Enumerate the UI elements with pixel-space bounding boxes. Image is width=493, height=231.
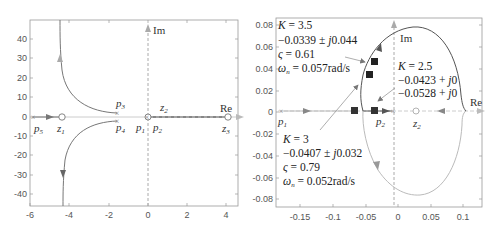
left-xtick: -2 xyxy=(105,210,113,220)
right-xtick: 0.1 xyxy=(457,212,470,222)
left-xtick: 2 xyxy=(184,210,189,220)
left-ytick: -10 xyxy=(14,131,27,141)
left-zero-z3-marker xyxy=(225,114,231,120)
left-locus-arrow-icon xyxy=(60,170,66,178)
right-locus-arrow-icon xyxy=(382,108,390,114)
left-im-label: Im xyxy=(153,24,166,36)
left-pole-p5-marker: × xyxy=(31,113,36,122)
right-xtick: -0.05 xyxy=(356,212,377,222)
right-xtick: 0.05 xyxy=(422,212,440,222)
right-x-ticks xyxy=(300,204,463,207)
svg-text:−0.0423 + j0: −0.0423 + j0 xyxy=(398,74,458,87)
left-ytick: -30 xyxy=(14,170,27,180)
left-xtick: 0 xyxy=(145,210,150,220)
left-ytick: 40 xyxy=(17,34,27,44)
marker-k2.5-a xyxy=(351,107,358,114)
right-label-p1: p1 xyxy=(277,115,287,129)
right-ytick: -0.08 xyxy=(252,194,273,204)
left-plot: -6 -4 -2 0 2 4 40 30 20 10 0 -10 -20 -30… xyxy=(14,20,244,220)
right-ytick: -0.02 xyxy=(252,129,273,139)
svg-text:K = 2.5: K = 2.5 xyxy=(397,60,433,72)
left-label-p2: p2 xyxy=(152,121,163,135)
left-ytick: 20 xyxy=(17,73,27,83)
annotation-k2.5: K = 2.5 −0.0423 + j0 −0.0528 + j0 xyxy=(397,60,458,100)
left-re-arrow-icon xyxy=(236,114,244,120)
right-ytick: 0.06 xyxy=(255,42,273,52)
left-ytick: -40 xyxy=(14,189,27,199)
right-im-label: Im xyxy=(400,32,413,44)
left-locus-upper-branch xyxy=(60,20,117,113)
svg-text:K = 3.5: K = 3.5 xyxy=(277,19,313,31)
right-ytick: -0.04 xyxy=(252,151,273,161)
right-locus-arrow-icon xyxy=(373,161,380,170)
left-xtick: -6 xyxy=(26,210,34,220)
right-xtick: -0.1 xyxy=(325,212,341,222)
left-ytick: 30 xyxy=(17,53,27,63)
left-xtick: 4 xyxy=(223,210,228,220)
annotation-k3.5: K = 3.5 −0.0339 ± j0.044 ς = 0.61 ωn = 0… xyxy=(277,19,358,76)
left-re-label: Re xyxy=(220,102,232,114)
svg-text:−0.0528 + j0: −0.0528 + j0 xyxy=(398,87,458,100)
right-label-z2: z2 xyxy=(412,117,421,131)
right-zero-z2-marker xyxy=(413,108,419,114)
left-label-z1: z1 xyxy=(56,122,65,136)
right-ytick: 0.02 xyxy=(255,86,273,96)
right-xtick: 0 xyxy=(395,212,400,222)
left-ytick: 10 xyxy=(17,92,27,102)
right-pole-p2-marker: × xyxy=(391,107,396,116)
left-axes-box xyxy=(30,20,238,206)
svg-text:K = 3: K = 3 xyxy=(282,133,309,145)
left-label-p4: p4 xyxy=(115,121,126,135)
right-locus-arrow-icon xyxy=(303,108,311,114)
right-xtick: -0.15 xyxy=(290,212,311,222)
right-ytick: 0 xyxy=(268,107,273,117)
left-ytick: -20 xyxy=(14,150,27,160)
left-ytick: 0 xyxy=(22,112,27,122)
left-label-p3: p3 xyxy=(115,97,126,111)
left-im-arrow-icon xyxy=(145,24,151,32)
root-locus-figure: -6 -4 -2 0 2 4 40 30 20 10 0 -10 -20 -30… xyxy=(0,0,493,231)
right-im-arrow-icon xyxy=(391,20,397,28)
left-locus-arrow-icon xyxy=(46,114,54,120)
left-label-p5: p5 xyxy=(33,122,44,136)
left-x-ticks xyxy=(30,20,226,206)
svg-text:ς = 0.61: ς = 0.61 xyxy=(278,48,315,61)
right-locus-arrow-icon xyxy=(437,108,445,114)
right-ytick: 0.08 xyxy=(255,20,273,30)
right-re-label: Re xyxy=(470,96,482,108)
left-zero-z1-marker xyxy=(59,114,65,120)
annotation-k3: K = 3 −0.0407 ± j0.032 ς = 0.79 ωn = 0.0… xyxy=(282,133,363,189)
left-pole-p1-p2-marker: × xyxy=(145,113,150,122)
right-label-p2: p2 xyxy=(375,115,386,129)
svg-text:ωn = 0.057rad/s: ωn = 0.057rad/s xyxy=(278,62,351,76)
marker-k3 xyxy=(366,71,373,78)
left-locus-lower-branch xyxy=(63,121,117,206)
right-plot: -0.15 -0.1 -0.05 0 0.05 0.1 0.08 0.06 0.… xyxy=(252,18,485,222)
svg-text:ωn = 0.052rad/s: ωn = 0.052rad/s xyxy=(283,175,356,189)
left-label-z3: z3 xyxy=(221,122,230,136)
marker-k2.5-b xyxy=(371,107,378,114)
left-label-p1: p1 xyxy=(135,121,145,135)
right-ytick: 0.04 xyxy=(255,64,273,74)
right-ytick: -0.06 xyxy=(252,173,273,183)
annotation-arrow-k2.5 xyxy=(378,88,395,101)
left-locus-arrow-icon xyxy=(57,54,63,62)
right-re-arrow-icon xyxy=(477,108,485,114)
svg-text:−0.0339 ± j0.044: −0.0339 ± j0.044 xyxy=(278,34,358,47)
svg-text:ς = 0.79: ς = 0.79 xyxy=(283,161,320,174)
marker-k3.5 xyxy=(371,58,378,65)
left-xtick: -4 xyxy=(65,210,73,220)
svg-text:−0.0407 ± j0.032: −0.0407 ± j0.032 xyxy=(283,147,363,160)
left-label-z2: z2 xyxy=(159,101,168,115)
